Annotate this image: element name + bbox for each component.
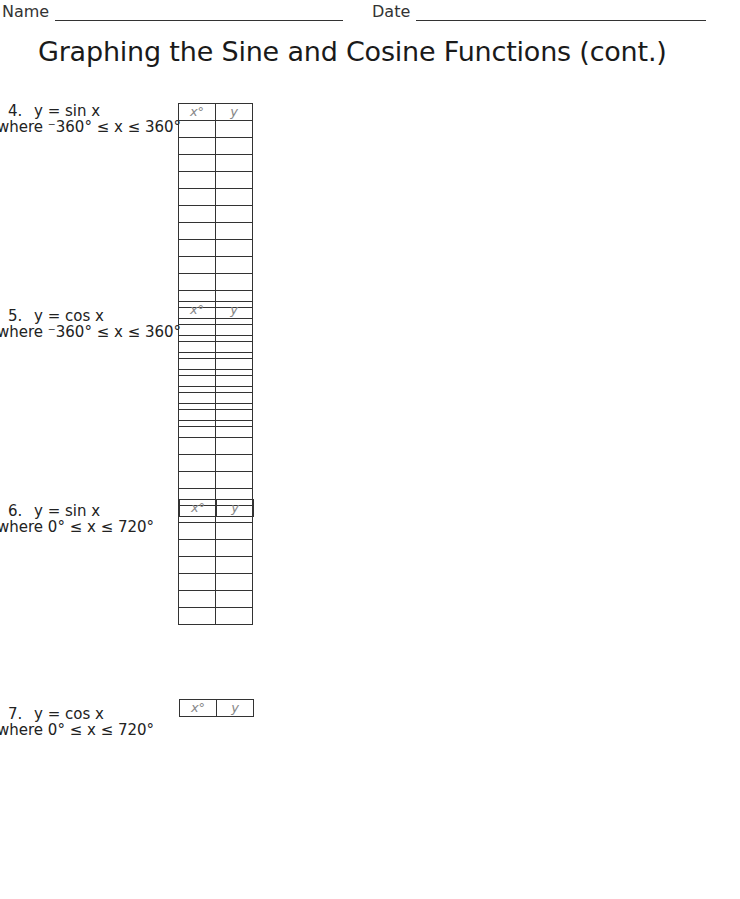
graph-layer [0,0,740,899]
